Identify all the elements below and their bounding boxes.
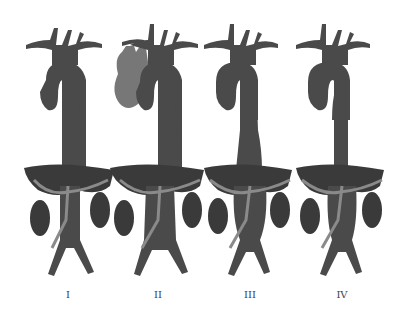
aorta-illustration-iv (292, 0, 392, 322)
aorta-illustration-ii (108, 0, 208, 322)
figure-type-iv: IV (292, 0, 392, 322)
aorta-illustration-iii (200, 0, 300, 322)
figure-type-ii: II (108, 0, 208, 322)
figure-type-i: I (18, 0, 118, 322)
figure-type-iii: III (200, 0, 300, 322)
figure-label: II (108, 289, 208, 300)
figure-label: IV (292, 289, 392, 300)
aorta-illustration-i (18, 0, 118, 322)
figure-label: III (200, 289, 300, 300)
figure-label: I (18, 289, 118, 300)
